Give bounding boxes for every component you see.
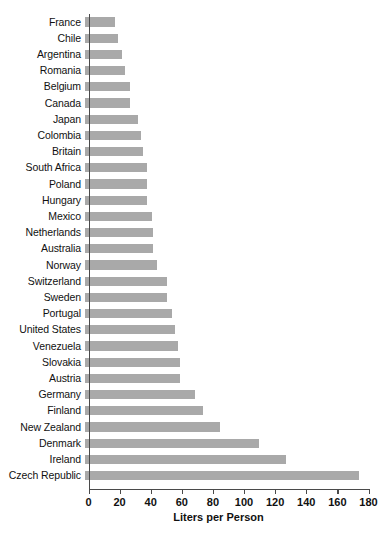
- bar-row: Argentina: [0, 46, 377, 62]
- bar: [85, 277, 167, 286]
- bar-category-label: Venezuela: [0, 341, 85, 352]
- bar-row: New Zealand: [0, 419, 377, 435]
- x-axis-tick-label: 20: [113, 496, 125, 508]
- bar: [85, 179, 147, 188]
- bar-category-label: South Africa: [0, 162, 85, 173]
- bar-track: [85, 306, 377, 322]
- bar-row: Germany: [0, 387, 377, 403]
- bar: [85, 50, 122, 59]
- bar: [85, 374, 180, 383]
- bar-track: [85, 241, 377, 257]
- x-axis-tick-label: 100: [235, 496, 253, 508]
- bar: [85, 163, 147, 172]
- x-axis-tick: [89, 489, 90, 494]
- bar-track: [85, 273, 377, 289]
- bar-category-label: Chile: [0, 33, 85, 44]
- bar-category-label: Slovakia: [0, 357, 85, 368]
- bar: [85, 228, 153, 237]
- bar-category-label: Finland: [0, 405, 85, 416]
- bar-track: [85, 111, 377, 127]
- bar: [85, 406, 203, 415]
- bar-row: Ireland: [0, 451, 377, 467]
- bar-category-label: Belgium: [0, 81, 85, 92]
- x-axis-tick: [337, 489, 338, 494]
- bar-track: [85, 208, 377, 224]
- bar-category-label: Norway: [0, 260, 85, 271]
- bar: [85, 390, 195, 399]
- x-axis-tick: [275, 489, 276, 494]
- bar-row: Norway: [0, 257, 377, 273]
- bar-row: Poland: [0, 176, 377, 192]
- bar-category-label: Romania: [0, 65, 85, 76]
- bar: [85, 309, 172, 318]
- bar-row: Venezuela: [0, 338, 377, 354]
- bar-track: [85, 176, 377, 192]
- bar-row: South Africa: [0, 160, 377, 176]
- x-axis-tick: [244, 489, 245, 494]
- bar-category-label: France: [0, 17, 85, 28]
- bar-category-label: United States: [0, 324, 85, 335]
- bar: [85, 82, 130, 91]
- bar-track: [85, 225, 377, 241]
- bar: [85, 244, 153, 253]
- bar-category-label: Poland: [0, 179, 85, 190]
- bar-track: [85, 127, 377, 143]
- bar-row: Czech Republic: [0, 468, 377, 484]
- bar: [85, 341, 178, 350]
- bar: [85, 422, 220, 431]
- bar-track: [85, 79, 377, 95]
- x-axis-tick-label: 180: [359, 496, 377, 508]
- bar-row: Japan: [0, 111, 377, 127]
- bar-track: [85, 289, 377, 305]
- bar-row: Netherlands: [0, 225, 377, 241]
- bar-row: Australia: [0, 241, 377, 257]
- bar-category-label: New Zealand: [0, 422, 85, 433]
- bar-category-label: Germany: [0, 389, 85, 400]
- bar-track: [85, 30, 377, 46]
- bar-category-label: Canada: [0, 98, 85, 109]
- bar-row: Canada: [0, 95, 377, 111]
- bar-category-label: Japan: [0, 114, 85, 125]
- bar-row: Chile: [0, 30, 377, 46]
- bar: [85, 439, 259, 448]
- bar: [85, 260, 157, 269]
- bar-row: Slovakia: [0, 354, 377, 370]
- bar: [85, 455, 286, 464]
- bar: [85, 196, 147, 205]
- bar: [85, 293, 167, 302]
- bar-row: France: [0, 14, 377, 30]
- bar-row: Portugal: [0, 306, 377, 322]
- bar: [85, 471, 359, 480]
- bar: [85, 66, 125, 75]
- x-axis-tick-label: 140: [297, 496, 315, 508]
- bar-category-label: Portugal: [0, 308, 85, 319]
- bar-track: [85, 14, 377, 30]
- bar-row: Mexico: [0, 208, 377, 224]
- x-axis-title: Liters per Person: [0, 511, 377, 523]
- plot-area: FranceChileArgentinaRomaniaBelgiumCanada…: [0, 0, 377, 489]
- bar-category-label: Mexico: [0, 211, 85, 222]
- bar-track: [85, 354, 377, 370]
- bar: [85, 34, 118, 43]
- x-axis-tick-label: 0: [85, 496, 91, 508]
- bar-row: United States: [0, 322, 377, 338]
- x-axis-tick: [151, 489, 152, 494]
- bar-category-label: Sweden: [0, 292, 85, 303]
- bar-track: [85, 257, 377, 273]
- bar-track: [85, 63, 377, 79]
- x-axis-tick: [120, 489, 121, 494]
- bar-track: [85, 387, 377, 403]
- x-axis-tick-label: 120: [266, 496, 284, 508]
- x-axis-tick-label: 80: [207, 496, 219, 508]
- bar-row: Romania: [0, 63, 377, 79]
- bar-track: [85, 403, 377, 419]
- bar-row: Hungary: [0, 192, 377, 208]
- y-axis-line: [89, 14, 90, 489]
- bar-row: Belgium: [0, 79, 377, 95]
- bar-category-label: Switzerland: [0, 276, 85, 287]
- bar-track: [85, 322, 377, 338]
- x-axis-line: [89, 489, 369, 490]
- bar-row: Colombia: [0, 127, 377, 143]
- bar: [85, 325, 175, 334]
- bar-category-label: Austria: [0, 373, 85, 384]
